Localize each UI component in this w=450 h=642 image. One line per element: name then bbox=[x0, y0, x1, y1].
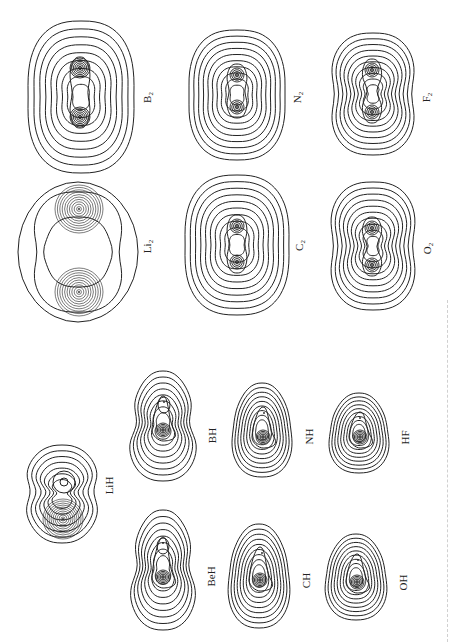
label-text: CH bbox=[300, 572, 312, 587]
contour-map-hf bbox=[329, 393, 389, 473]
contour-map-o2 bbox=[331, 182, 415, 310]
label-c2: C2 bbox=[293, 240, 306, 251]
label-text: HF bbox=[399, 430, 411, 444]
label-subscript: 2 bbox=[426, 92, 434, 96]
label-n2: N2 bbox=[292, 91, 305, 102]
label-nh: NH bbox=[304, 428, 315, 444]
label-text: F bbox=[420, 96, 432, 102]
contour-map-n2 bbox=[189, 30, 285, 160]
label-text: BeH bbox=[205, 566, 217, 586]
contour-map-lih bbox=[27, 445, 98, 543]
label-text: NH bbox=[303, 428, 315, 444]
contour-map-oh bbox=[325, 534, 387, 620]
label-lih: LiH bbox=[104, 476, 115, 494]
label-hf: HF bbox=[400, 430, 411, 444]
label-b2: B2 bbox=[141, 92, 154, 103]
label-text: C bbox=[292, 243, 304, 250]
label-subscript: 2 bbox=[147, 239, 155, 243]
label-text: BH bbox=[206, 427, 218, 442]
label-oh: OH bbox=[398, 574, 409, 590]
label-text: B bbox=[140, 95, 152, 102]
label-subscript: 2 bbox=[146, 92, 154, 96]
label-ch: CH bbox=[301, 572, 312, 587]
contour-map-ch bbox=[228, 524, 290, 628]
label-f2: F2 bbox=[421, 92, 434, 102]
contour-map-c2 bbox=[185, 175, 289, 315]
contour-map-li2 bbox=[18, 182, 138, 322]
page-edge-divider bbox=[447, 300, 448, 642]
label-text: LiH bbox=[103, 476, 115, 494]
contour-map-b2 bbox=[28, 21, 134, 173]
label-text: O bbox=[421, 246, 433, 254]
label-beh: BeH bbox=[206, 566, 217, 586]
label-o2: O2 bbox=[422, 242, 435, 253]
label-subscript: 2 bbox=[427, 242, 435, 246]
label-text: OH bbox=[397, 574, 409, 590]
label-text: N bbox=[291, 95, 303, 103]
label-li2: Li2 bbox=[142, 239, 155, 252]
label-subscript: 2 bbox=[297, 91, 305, 95]
contour-map-bh bbox=[130, 371, 196, 481]
contour-figure bbox=[0, 0, 450, 642]
label-subscript: 2 bbox=[298, 240, 306, 244]
contour-map-f2 bbox=[332, 33, 414, 155]
contour-map-beh bbox=[131, 510, 196, 630]
label-bh: BH bbox=[207, 427, 218, 442]
contour-map-nh bbox=[232, 383, 292, 477]
label-text: Li bbox=[141, 243, 153, 253]
